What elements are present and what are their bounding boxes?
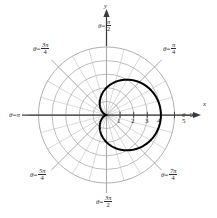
x-tick-label-1: 1 [117, 117, 121, 125]
fraction: π 2 [106, 19, 111, 33]
y-axis-label: y [104, 3, 107, 10]
fraction-denominator: 4 [41, 48, 50, 56]
equals-sign: = [99, 198, 103, 206]
theta-pi-4-label: θ= π 4 [163, 42, 176, 56]
theta-3pi-2-label: θ= 3π 2 [96, 195, 112, 209]
theta-pi-2-label: θ= π 2 [98, 19, 111, 33]
x-axis-label: x [203, 101, 206, 108]
theta-value: π [16, 111, 20, 119]
theta-3pi-4-label: θ= 3π 4 [33, 42, 49, 56]
fraction: 3π 4 [41, 42, 50, 56]
fraction: π 4 [171, 42, 176, 56]
theta-7pi-4-label: θ= 7π 4 [161, 168, 177, 182]
x-tick-label-3: 3 [145, 117, 149, 125]
equals-sign: = [164, 171, 168, 179]
fraction: 3π 2 [104, 195, 113, 209]
equals-sign: = [166, 45, 170, 53]
fraction: 7π 4 [169, 168, 178, 182]
x-tick-label-5: 5 [182, 117, 186, 125]
equals-sign: = [33, 171, 37, 179]
fraction-denominator: 4 [171, 48, 176, 56]
x-tick-label-4: 4 [157, 117, 161, 125]
theta-value: 0 [189, 111, 193, 119]
fraction-denominator: 4 [169, 174, 178, 182]
fraction-denominator: 2 [104, 201, 113, 209]
axis-lines [22, 9, 201, 118]
fraction-denominator: 4 [38, 174, 47, 182]
equals-sign: = [36, 45, 40, 53]
theta-5pi-4-label: θ= 5π 4 [30, 168, 46, 182]
equals-sign: = [101, 22, 105, 30]
theta-pi-label: θ=π [9, 112, 20, 119]
fraction-denominator: 2 [106, 25, 111, 33]
fraction: 5π 4 [38, 168, 47, 182]
x-tick-label-2: 2 [131, 117, 135, 125]
